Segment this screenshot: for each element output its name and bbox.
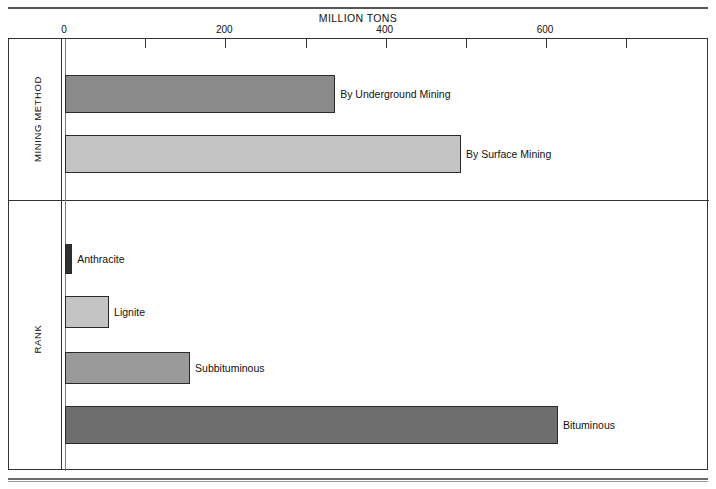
bottom-divider-rule-thin: [8, 481, 708, 482]
x-tick-label-400: 400: [376, 24, 393, 35]
bar-by-surface-mining: [65, 135, 461, 173]
x-tick-label-200: 200: [216, 24, 233, 35]
x-tick-300: [306, 39, 307, 48]
bar-bituminous: [65, 406, 558, 444]
bar-anthracite: [65, 244, 72, 274]
panel-divider: [9, 200, 709, 201]
group-label-gutter-rule: [61, 39, 62, 469]
bar-lignite: [65, 296, 109, 328]
bar-by-underground-mining: [65, 75, 335, 113]
top-divider-rule: [8, 7, 708, 9]
x-tick-100: [145, 39, 146, 48]
x-tick-700: [626, 39, 627, 48]
x-tick-400: [386, 39, 387, 48]
chart-figure: MILLION TONS 0200400600 MINING METHOD RA…: [0, 0, 716, 489]
bar-label-lignite: Lignite: [114, 306, 145, 318]
group-label-rank: RANK: [32, 325, 43, 354]
bar-label-anthracite: Anthracite: [77, 253, 124, 265]
x-tick-500: [466, 39, 467, 48]
bar-label-subbituminous: Subbituminous: [195, 362, 264, 374]
bar-label-bituminous: Bituminous: [563, 419, 615, 431]
x-tick-600: [546, 39, 547, 48]
x-axis-title: MILLION TONS: [0, 12, 716, 24]
bar-label-by-surface-mining: By Surface Mining: [466, 148, 551, 160]
x-tick-200: [225, 39, 226, 48]
bar-label-by-underground-mining: By Underground Mining: [340, 88, 450, 100]
bottom-divider-rule-thick: [8, 478, 708, 480]
plot-frame: MINING METHOD RANK By Underground Mining…: [8, 38, 708, 470]
x-tick-label-600: 600: [537, 24, 554, 35]
x-tick-label-0: 0: [61, 24, 67, 35]
bar-subbituminous: [65, 352, 190, 384]
zero-baseline-upper: [65, 39, 66, 200]
group-label-mining-method: MINING METHOD: [32, 76, 43, 162]
